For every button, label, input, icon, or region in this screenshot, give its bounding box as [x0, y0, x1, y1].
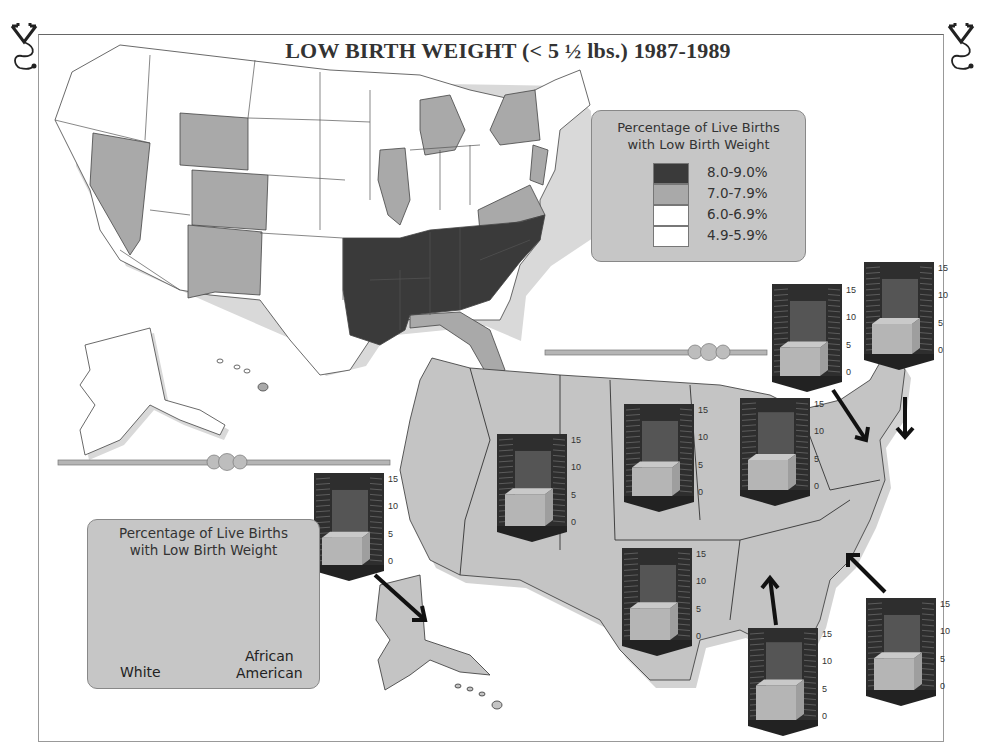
legend-regional-charts: Percentage of Live Births with Low Birth… [87, 519, 320, 689]
region-chart: 051015 [314, 473, 398, 581]
regional-map [376, 345, 911, 709]
legend-swatch-dark [653, 163, 689, 184]
legend-title-line1: Percentage of Live Births [592, 119, 805, 136]
bar-white [505, 494, 545, 526]
y-tick-label: 5 [698, 460, 703, 470]
bar-white-top [630, 602, 678, 608]
legend-title-line2: with Low Birth Weight [592, 136, 805, 153]
bar-white-top [505, 488, 553, 494]
bar-white-top [322, 532, 370, 538]
bar-white [756, 686, 796, 720]
state-wyoming [180, 113, 248, 170]
bar-white-top [780, 342, 828, 348]
bar-white [874, 658, 914, 690]
y-tick-label: 15 [938, 263, 948, 273]
y-tick-label: 5 [846, 340, 851, 350]
bar-white-top [756, 680, 804, 686]
y-tick-label: 0 [571, 517, 576, 527]
y-tick-label: 10 [698, 432, 708, 442]
chart-floor [866, 690, 936, 706]
bar-white-side [788, 454, 796, 490]
state-hawaii [217, 359, 268, 391]
divider-bottom [58, 454, 390, 471]
bar-white-side [912, 318, 920, 354]
legend-label: 6.0-6.9% [707, 206, 768, 222]
y-tick-label: 10 [940, 626, 950, 636]
y-tick-label: 5 [938, 318, 943, 328]
y-tick-label: 10 [388, 501, 398, 511]
bar-white-top [748, 454, 796, 460]
y-tick-label: 15 [814, 399, 824, 409]
region-chart: 051015 [772, 284, 856, 392]
y-tick-label: 15 [388, 474, 398, 484]
bar-white-side [796, 680, 804, 720]
bar-white [322, 538, 362, 565]
legend-label: 7.0-7.9% [707, 185, 768, 201]
legend-title: Percentage of Live Births with Low Birth… [592, 119, 805, 153]
state-colorado [192, 170, 268, 230]
legend-swatch-lightest [653, 226, 689, 247]
bar-white [630, 608, 670, 640]
y-tick-label: 0 [822, 711, 827, 721]
y-tick-label: 10 [696, 576, 706, 586]
arrow-south-atlantic [848, 555, 885, 592]
y-tick-label: 15 [698, 405, 708, 415]
legend-label: 4.9-5.9% [707, 227, 768, 243]
callout-african-american: African American [236, 648, 303, 682]
bar-white-top [874, 652, 922, 658]
legend-title-line2: with Low Birth Weight [88, 542, 319, 559]
chart-floor [772, 376, 842, 392]
y-tick-label: 10 [814, 426, 824, 436]
y-tick-label: 15 [822, 629, 832, 639]
callout-white: White [120, 664, 161, 681]
y-tick-label: 10 [846, 312, 856, 322]
bar-white [748, 460, 788, 490]
legend-swatch-medium [653, 184, 689, 205]
y-tick-label: 10 [822, 656, 832, 666]
bar-white [780, 348, 820, 376]
bar-white-side [670, 602, 678, 640]
bar-white-top [632, 462, 680, 468]
y-tick-label: 15 [571, 435, 581, 445]
y-tick-label: 5 [696, 604, 701, 614]
legend-swatch-light [653, 205, 689, 226]
y-tick-label: 5 [822, 684, 827, 694]
y-tick-label: 0 [696, 631, 701, 641]
bar-white-side [672, 462, 680, 496]
legend-state-map: Percentage of Live Births with Low Birth… [591, 110, 806, 262]
region-chart: 051015 [866, 598, 950, 706]
region-chart: 051015 [864, 262, 948, 370]
state-new-mexico [188, 225, 262, 298]
y-tick-label: 15 [696, 549, 706, 559]
y-tick-label: 10 [938, 290, 948, 300]
y-tick-label: 0 [814, 481, 819, 491]
y-tick-label: 5 [388, 529, 393, 539]
chart-floor [314, 565, 384, 581]
bar-white-side [820, 342, 828, 376]
y-tick-label: 5 [814, 454, 819, 464]
bar-white-top [872, 318, 920, 324]
y-tick-label: 5 [571, 490, 576, 500]
bar-white [632, 468, 672, 496]
legend-label: 8.0-9.0% [707, 164, 768, 180]
bar-white [872, 324, 912, 354]
bar-white-side [545, 488, 553, 526]
chart-floor [864, 354, 934, 370]
region-chart: 051015 [748, 628, 832, 736]
legend-title: Percentage of Live Births with Low Birth… [88, 525, 319, 559]
divider-top [545, 344, 767, 361]
chart-floor [748, 720, 818, 736]
y-tick-label: 0 [846, 367, 851, 377]
hawaii-lower [455, 684, 502, 709]
y-tick-label: 15 [846, 285, 856, 295]
bar-white-side [914, 652, 922, 690]
y-tick-label: 10 [571, 462, 581, 472]
state-alaska [80, 328, 225, 455]
y-tick-label: 0 [698, 487, 703, 497]
callout-aa-line1: African [236, 648, 303, 665]
callout-aa-line2: American [236, 665, 303, 682]
y-tick-label: 15 [940, 599, 950, 609]
y-tick-label: 0 [938, 345, 943, 355]
legend-title-line1: Percentage of Live Births [88, 525, 319, 542]
y-tick-label: 5 [940, 654, 945, 664]
